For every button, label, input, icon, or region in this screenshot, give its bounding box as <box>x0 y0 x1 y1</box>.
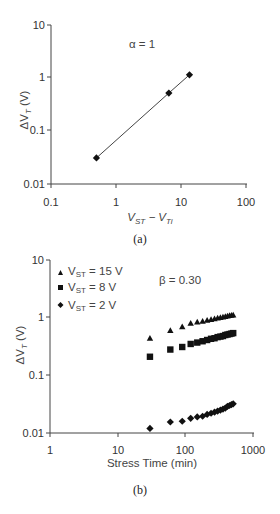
data-point <box>179 344 185 350</box>
y-axis-label: ΔVT (V) <box>14 325 29 364</box>
legend: VST = 15 V VST = 8 V VST = 2 V <box>58 265 123 313</box>
legend-item-2v: VST = 2 V <box>58 299 117 313</box>
chart-b-plot <box>146 312 236 432</box>
y-tick-1: 1 <box>38 311 44 323</box>
caption-a: (a) <box>133 232 146 246</box>
data-point <box>187 415 194 422</box>
chart-a-plot <box>93 71 193 161</box>
x-tick-10: 10 <box>175 196 187 208</box>
x-tick-100: 100 <box>176 444 194 456</box>
y-tick-0.1: 0.1 <box>30 124 45 136</box>
y-tick-10: 10 <box>32 254 44 266</box>
annotation-beta: β = 0.30 <box>159 274 201 286</box>
x-tick-1: 1 <box>113 196 119 208</box>
data-point <box>179 418 186 425</box>
data-point <box>179 323 185 329</box>
data-point <box>167 418 174 425</box>
x-tick-1: 1 <box>47 444 53 456</box>
y-tick-1: 1 <box>39 71 45 83</box>
x-tick-100: 100 <box>237 196 255 208</box>
data-point <box>146 425 153 432</box>
x-tick-10: 10 <box>112 444 124 456</box>
x-tick-0.1: 0.1 <box>43 196 58 208</box>
svg-text:VST = 15 V: VST = 15 V <box>68 265 123 279</box>
svg-text:VST = 8 V: VST = 8 V <box>68 281 117 295</box>
data-point <box>167 346 173 352</box>
data-point <box>167 327 173 333</box>
svg-text:VST = 2 V: VST = 2 V <box>68 299 117 313</box>
x-tick-1000: 1000 <box>241 444 265 456</box>
data-point <box>187 320 193 326</box>
annotation-alpha: α = 1 <box>129 38 155 50</box>
legend-item-15v: VST = 15 V <box>58 265 123 279</box>
y-tick-10: 10 <box>33 19 45 31</box>
data-point <box>230 330 236 336</box>
x-axis-label: VST − VTi <box>127 211 173 226</box>
data-point <box>194 319 200 325</box>
x-axis-label: Stress Time (min) <box>107 457 197 469</box>
triangle-marker-icon <box>58 270 63 275</box>
data-point <box>147 354 153 360</box>
data-point <box>147 335 153 341</box>
y-tick-0.01: 0.01 <box>24 178 45 190</box>
diamond-marker-icon <box>58 302 64 308</box>
square-marker-icon <box>58 285 63 290</box>
figure: 10 1 0.1 0.01 0.1 1 10 100 ΔVT (V) VST −… <box>0 0 280 514</box>
caption-b: (b) <box>133 483 147 497</box>
y-tick-0.1: 0.1 <box>29 369 44 381</box>
chart-b: 10 1 0.1 0.01 1 10 100 1000 ΔVT (V) Stre… <box>14 254 265 497</box>
chart-a: 10 1 0.1 0.01 0.1 1 10 100 ΔVT (V) VST −… <box>18 19 255 246</box>
data-point <box>187 341 193 347</box>
y-tick-0.01: 0.01 <box>23 427 44 439</box>
legend-item-8v: VST = 8 V <box>58 281 117 295</box>
